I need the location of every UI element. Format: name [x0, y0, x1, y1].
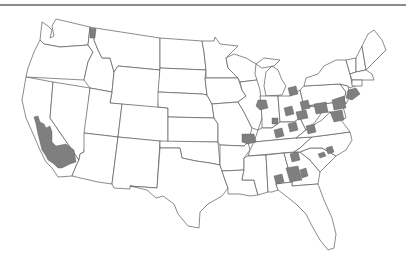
region-nj-ny-metro[interactable] [346, 88, 360, 100]
region-id-panhandle[interactable] [90, 28, 96, 38]
region-ky-counties[interactable] [274, 128, 284, 138]
us-map [0, 0, 406, 264]
state-kansas[interactable] [168, 117, 218, 142]
region-wv-counties[interactable] [306, 124, 316, 134]
region-tn-counties[interactable] [290, 152, 300, 162]
state-connecticut[interactable] [352, 80, 362, 86]
state-south-dakota[interactable] [158, 68, 207, 95]
state-new-mexico[interactable] [112, 137, 160, 189]
region-il-stlouis[interactable] [242, 134, 256, 144]
state-borders [22, 19, 386, 250]
state-michigan[interactable] [256, 58, 286, 96]
state-colorado[interactable] [118, 104, 168, 142]
state-florida[interactable] [276, 182, 336, 250]
state-washington[interactable] [40, 19, 90, 47]
state-north-dakota[interactable] [160, 38, 206, 70]
state-wyoming[interactable] [110, 66, 160, 108]
region-mi-detroit[interactable] [288, 86, 298, 96]
state-maine[interactable] [362, 30, 386, 70]
